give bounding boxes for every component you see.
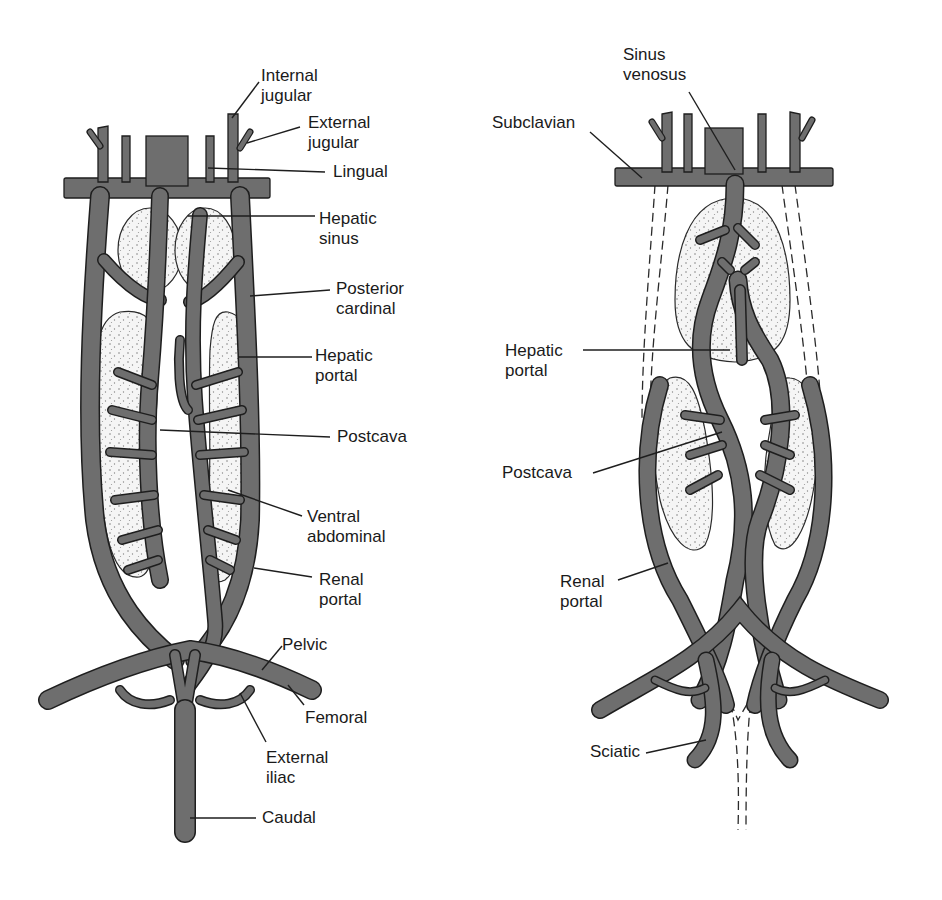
label-caudal: Caudal bbox=[262, 808, 316, 828]
label-external-iliac: External iliac bbox=[266, 748, 328, 788]
label-internal-jugular: Internal jugular bbox=[261, 66, 318, 106]
left-diagram bbox=[48, 82, 330, 832]
label-ventral-abdominal: Ventral abdominal bbox=[307, 507, 385, 547]
right-head-veins bbox=[615, 112, 833, 186]
label-subclavian: Subclavian bbox=[492, 113, 575, 133]
label-hepatic-sinus: Hepatic sinus bbox=[319, 209, 377, 249]
right-leg-veins bbox=[600, 610, 880, 760]
right-diagram bbox=[583, 92, 880, 830]
label-postcava: Postcava bbox=[502, 463, 572, 483]
label-postcava: Postcava bbox=[337, 427, 407, 447]
venous-system-diagram bbox=[0, 0, 942, 900]
label-renal-portal: Renal portal bbox=[319, 570, 363, 610]
label-posterior-cardinal: Posterior cardinal bbox=[336, 279, 404, 319]
left-head-veins bbox=[64, 114, 270, 198]
label-lingual: Lingual bbox=[333, 162, 388, 182]
label-pelvic: Pelvic bbox=[282, 635, 327, 655]
label-femoral: Femoral bbox=[305, 708, 367, 728]
label-sinus-venosus: Sinus venosus bbox=[623, 45, 686, 85]
label-hepatic-portal: Hepatic portal bbox=[315, 346, 373, 386]
label-external-jugular: External jugular bbox=[308, 113, 370, 153]
left-pelvic-veins bbox=[48, 650, 312, 832]
sinus-block bbox=[146, 136, 188, 186]
label-renal-portal: Renal portal bbox=[560, 572, 604, 612]
label-sciatic: Sciatic bbox=[590, 742, 640, 762]
label-hepatic-portal: Hepatic portal bbox=[505, 341, 563, 381]
